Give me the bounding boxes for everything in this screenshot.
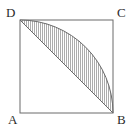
geometry-figure: A B C D	[0, 0, 133, 135]
vertex-label-c: C	[117, 6, 126, 19]
vertex-label-b: B	[117, 113, 126, 126]
figure-canvas	[0, 0, 133, 135]
vertex-label-d: D	[6, 6, 15, 19]
vertex-label-a: A	[8, 113, 17, 126]
